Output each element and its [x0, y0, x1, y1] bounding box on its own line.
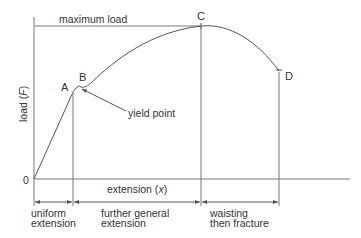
region-uniform-line2: extension [31, 218, 76, 229]
point-c-label: C [197, 11, 205, 22]
origin-label: 0 [23, 175, 29, 186]
x-axis-label: extension (x) [107, 184, 167, 195]
region-further-line2: extension [101, 218, 146, 229]
yield-point-label: yield point [128, 108, 175, 119]
y-axis-label: load (F) [18, 86, 29, 122]
yield-point-arrow [82, 89, 126, 111]
load-extension-diagram [0, 0, 361, 238]
max-load-label: maximum load [59, 14, 127, 25]
load-curve [34, 26, 279, 179]
point-b-label: B [79, 72, 86, 83]
point-d-label: D [285, 71, 293, 82]
region-waisting-line2: then fracture [210, 218, 269, 229]
point-a-label: A [61, 82, 68, 93]
